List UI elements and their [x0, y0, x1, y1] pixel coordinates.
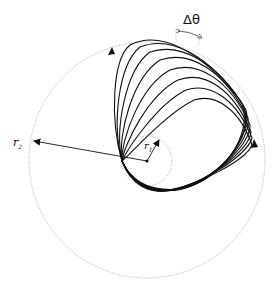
r2-label: r2 — [13, 136, 22, 150]
delta-theta-arc — [178, 31, 200, 37]
diagram-stage: Δθ r2 r1 — [0, 0, 275, 295]
r1-subscript: 1 — [149, 146, 153, 153]
r2-subscript: 2 — [18, 143, 22, 150]
orbit-diagram — [0, 0, 275, 295]
r2-radius-arrow — [34, 141, 147, 161]
r1-label: r1 — [144, 140, 153, 153]
delta-theta-label: Δθ — [183, 12, 200, 27]
transfer-orbit-curves — [114, 40, 252, 191]
direction-arrow-left-icon — [108, 47, 115, 55]
